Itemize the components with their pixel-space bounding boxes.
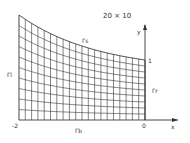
x-tick-minus-2: -2 [12,122,18,129]
x-axis-label: x [171,123,175,130]
curvilinear-mesh [19,15,145,120]
grid-size-title: 20 × 10 [103,12,131,20]
boundary-label-right: Γr [152,87,158,94]
x-tick-0: 0 [142,122,146,129]
boundary-label-left: Γl [7,71,12,78]
grid-diagram: 20 × 10 y 1 x -2 0 Γs Γl Γr Γb [0,0,190,143]
y-axis-label: y [137,28,141,36]
boundary-label-top: Γs [82,37,88,44]
y-axis-arrow-icon [143,24,147,30]
boundary-label-bottom: Γb [75,127,82,134]
x-axis-arrow-icon [172,118,178,122]
y-tick-1: 1 [148,57,152,64]
